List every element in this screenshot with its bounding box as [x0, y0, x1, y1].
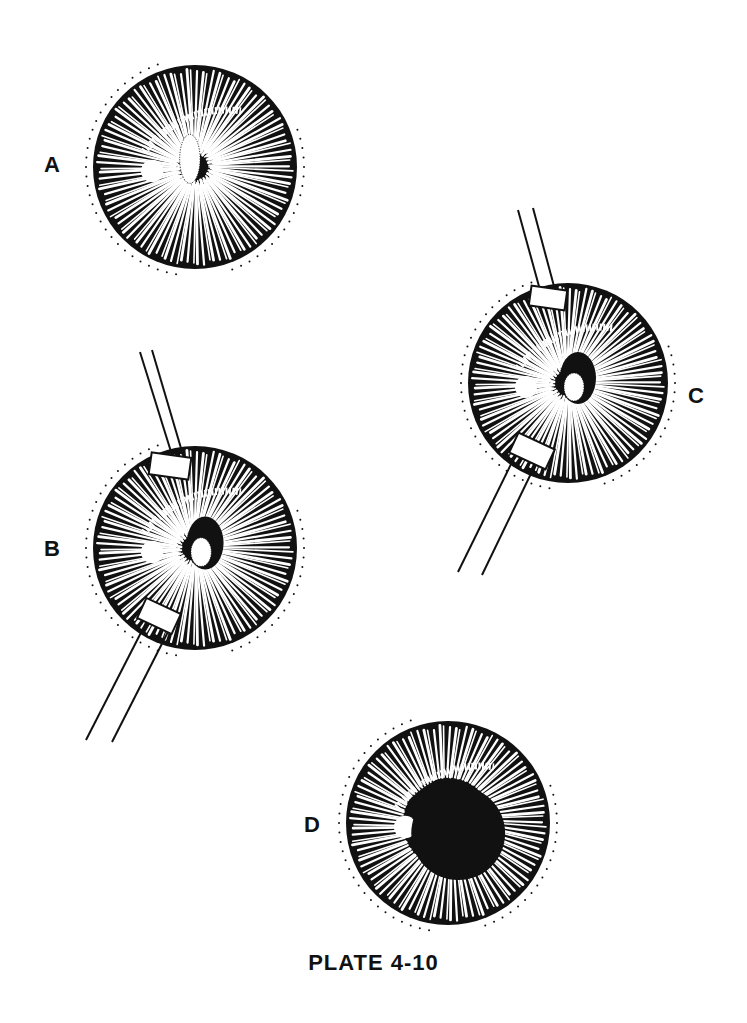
- panel-label-d: D: [304, 812, 320, 838]
- panel-label-c: C: [688, 383, 704, 409]
- panel-label-b: B: [44, 536, 60, 562]
- plate-illustration: [0, 0, 747, 1023]
- eye-panel-b: [85, 445, 305, 657]
- eye-panel-c: [460, 281, 676, 489]
- eye-panel-a: [85, 64, 305, 276]
- eye-panel-d: [338, 720, 558, 932]
- panel-label-a: A: [44, 152, 60, 178]
- plate-caption: PLATE 4-10: [0, 950, 747, 976]
